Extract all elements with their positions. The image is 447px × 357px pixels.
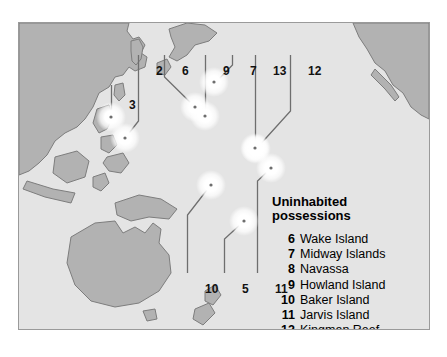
map-label-9: 9 xyxy=(223,65,230,77)
map-label-6: 6 xyxy=(182,65,189,77)
legend-item-name: Kingman Reef xyxy=(300,323,379,330)
map-label-3: 3 xyxy=(129,99,136,111)
map-label-13: 13 xyxy=(273,65,286,77)
legend-list: 6 Wake Island 7 Midway Islands 8 Navassa… xyxy=(272,232,430,330)
legend-item-number: 8 xyxy=(272,262,295,277)
marker-dot-5 xyxy=(242,219,245,222)
legend-item-name: Jarvis Island xyxy=(300,308,369,323)
map-label-12: 12 xyxy=(308,65,321,77)
legend-title-line-1: Uninhabited xyxy=(272,194,347,209)
map-panel: Uninhabited possessions 6 Wake Island 7 … xyxy=(18,22,430,330)
legend-title: Uninhabited possessions xyxy=(272,195,382,223)
legend-item-name: Howland Island xyxy=(300,278,385,293)
legend-item: 7 Midway Islands xyxy=(272,247,430,262)
marker-dot-7 xyxy=(212,80,215,83)
marker-dot-13 xyxy=(253,146,256,149)
map-label-7: 7 xyxy=(250,65,257,77)
marker-dot-9 xyxy=(203,114,206,117)
legend-item-name: Midway Islands xyxy=(300,247,385,262)
legend-title-line-2: possessions xyxy=(272,208,351,223)
marker-dot-2 xyxy=(123,136,126,139)
legend-item: 8 Navassa xyxy=(272,262,430,277)
legend-item-number: 11 xyxy=(272,308,295,323)
map-label-2: 2 xyxy=(156,65,163,77)
legend-item-number: 7 xyxy=(272,247,295,262)
legend-item-number: 6 xyxy=(272,232,295,247)
legend-item: 6 Wake Island xyxy=(272,232,430,247)
map-label-10: 10 xyxy=(205,283,218,295)
map-label-11: 11 xyxy=(275,283,288,295)
legend: Uninhabited possessions 6 Wake Island 7 … xyxy=(272,195,430,330)
map-figure: Uninhabited possessions 6 Wake Island 7 … xyxy=(0,0,447,357)
marker-dot-10 xyxy=(209,183,212,186)
legend-item-name: Baker Island xyxy=(300,293,369,308)
marker-dot-11 xyxy=(269,166,272,169)
legend-item: 9 Howland Island xyxy=(272,278,430,293)
marker-dot-6 xyxy=(193,105,196,108)
map-label-5: 5 xyxy=(242,283,249,295)
legend-item: 11 Jarvis Island xyxy=(272,308,430,323)
legend-item-name: Wake Island xyxy=(300,232,368,247)
legend-item-number: 12 xyxy=(272,323,295,330)
legend-item: 10 Baker Island xyxy=(272,293,430,308)
legend-item-name: Navassa xyxy=(300,262,349,277)
marker-dot-3 xyxy=(109,115,112,118)
legend-item: 12 Kingman Reef xyxy=(272,323,430,330)
